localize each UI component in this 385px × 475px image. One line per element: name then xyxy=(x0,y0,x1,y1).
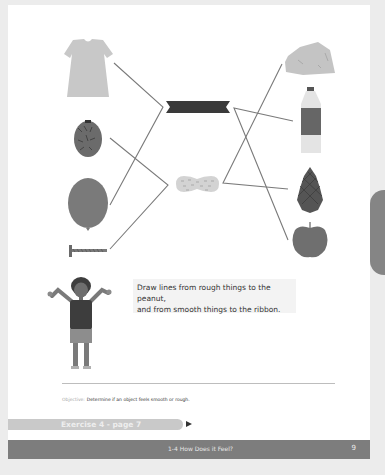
objective-text: Objective:Determine if an object feels s… xyxy=(62,397,190,402)
instruction-box: Draw lines from rough things to the pean… xyxy=(133,279,296,313)
apple-icon xyxy=(293,222,328,257)
balloon-icon xyxy=(68,178,108,231)
line-dress-balloon-ribbon xyxy=(110,63,163,205)
page-number: 9 xyxy=(352,444,356,452)
exercise-banner[interactable]: Exercise 4 - page 7 xyxy=(8,419,183,430)
page-footer: 1-4 How Does it Feel? 9 xyxy=(8,440,370,459)
water-bottle-icon xyxy=(301,87,321,153)
rock-icon xyxy=(285,42,335,75)
matching-illustration xyxy=(0,0,385,475)
pinecone-icon xyxy=(297,167,323,213)
side-tab[interactable] xyxy=(370,190,385,275)
answer-lines xyxy=(110,63,293,249)
line-rock-pinecone-peanut xyxy=(223,64,288,189)
section-title: 1-4 How Does it Feel? xyxy=(168,445,233,452)
peanut-icon xyxy=(176,176,219,192)
instruction-line-1: Draw lines from rough things to the pean… xyxy=(137,282,293,304)
line-bottle-apple-ribbon xyxy=(234,108,293,240)
nail-icon xyxy=(69,245,107,257)
divider xyxy=(62,383,335,384)
ribbon-icon xyxy=(166,101,230,113)
objective-label: Objective: xyxy=(62,397,85,402)
pineapple-icon xyxy=(74,120,102,157)
child-figure-icon xyxy=(48,277,112,369)
line-pineapple-nail-peanut xyxy=(110,138,168,249)
exercise-label: Exercise 4 - page 7 xyxy=(61,420,141,429)
instruction-line-2: and from smooth things to the ribbon. xyxy=(137,304,293,315)
objective-body: Determine if an object feels smooth or r… xyxy=(87,397,190,402)
dress-icon xyxy=(64,39,113,97)
arrow-right-icon[interactable] xyxy=(186,421,192,427)
